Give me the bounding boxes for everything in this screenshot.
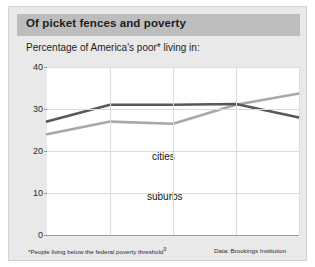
y-tickmark	[44, 151, 47, 152]
y-axis-tick-label: 30	[33, 104, 43, 114]
y-axis-tick-label: 20	[33, 146, 43, 156]
y-axis-tick-label: 40	[33, 62, 43, 72]
y-tickmark	[44, 235, 47, 236]
page-title: Of picket fences and poverty	[26, 17, 186, 29]
y-tickmark	[44, 109, 47, 110]
footnote-marker: 9	[164, 246, 167, 252]
gridline-vertical	[173, 67, 174, 235]
chart-source: Data: Brookings Institution	[214, 247, 286, 254]
y-tickmark	[44, 193, 47, 194]
series-label-cities: cities	[152, 151, 175, 162]
gridline-vertical	[236, 67, 237, 235]
gridline-vertical	[110, 67, 111, 235]
chart-footnote: *People living below the federal poverty…	[28, 246, 166, 255]
y-axis-tick-label: 10	[33, 188, 43, 198]
footnote-text: *People living below the federal poverty…	[28, 248, 164, 255]
gridline-vertical	[299, 67, 300, 235]
y-tickmark	[44, 67, 47, 68]
chart-subtitle: Percentage of America's poor* living in:	[26, 42, 200, 53]
chart-figure: Of picket fences and poverty Percentage …	[8, 6, 307, 261]
x-axis-line	[47, 235, 299, 236]
chart-title-bar: Of picket fences and poverty	[17, 14, 300, 36]
plot-area: cities suburbs 0102030401970198019902000…	[47, 67, 299, 235]
y-axis-tick-label: 0	[38, 230, 43, 240]
